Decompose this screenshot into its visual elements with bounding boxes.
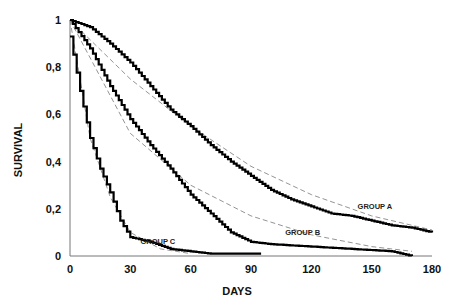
x-axis-title: DAYS xyxy=(222,285,252,297)
y-axis-title: SURVIVAL xyxy=(12,122,24,177)
km-curve-group-a xyxy=(70,20,432,232)
y-tick-label: 0 xyxy=(55,250,61,262)
fit-curve xyxy=(70,20,191,254)
group-label: GROUP A xyxy=(358,202,393,211)
chart-canvas: 030609012015018000,20,40,60,81DAYSSURVIV… xyxy=(0,0,459,307)
fit-curve xyxy=(70,20,432,230)
x-tick-label: 0 xyxy=(67,263,73,275)
x-tick-label: 150 xyxy=(362,263,380,275)
y-tick-label: 0,2 xyxy=(46,203,61,215)
x-tick-label: 30 xyxy=(124,263,136,275)
x-tick-label: 120 xyxy=(302,263,320,275)
x-tick-label: 90 xyxy=(245,263,257,275)
y-tick-label: 0,6 xyxy=(46,108,61,120)
km-curve-group-c xyxy=(70,37,261,254)
annotations: GROUP AGROUP BGROUP C xyxy=(140,202,392,246)
y-tick-label: 0,4 xyxy=(46,156,62,168)
x-tick-label: 60 xyxy=(185,263,197,275)
survival-chart: 030609012015018000,20,40,60,81DAYSSURVIV… xyxy=(0,0,459,307)
km-curves xyxy=(70,20,432,256)
group-label: GROUP B xyxy=(285,228,320,237)
y-tick-label: 0,8 xyxy=(46,61,61,73)
x-tick-label: 180 xyxy=(423,263,441,275)
group-label: GROUP C xyxy=(140,237,175,246)
y-tick-label: 1 xyxy=(55,14,61,26)
